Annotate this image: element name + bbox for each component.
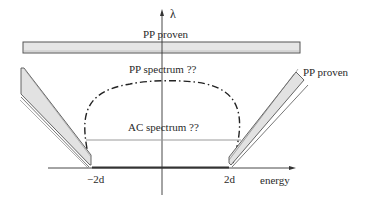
energy-axis-label: energy <box>260 174 290 186</box>
ac-spectrum-unknown-label: AC spectrum ?? <box>128 121 199 133</box>
right-pp-proven-label: PP proven <box>303 66 348 78</box>
top-pp-band <box>23 42 300 53</box>
top-pp-proven-label: PP proven <box>143 28 188 40</box>
right-pp-wedge <box>229 69 308 167</box>
pp-spectrum-unknown-label: PP spectrum ?? <box>129 63 196 75</box>
tick-label-neg-2d: −2d <box>87 173 104 185</box>
energy-axis <box>48 166 296 170</box>
left-pp-wedge <box>20 68 91 168</box>
tick-label-2d: 2d <box>224 173 235 185</box>
lambda-axis-label: λ <box>170 8 176 20</box>
